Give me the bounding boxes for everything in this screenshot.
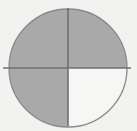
paper-grain-overlay	[0, 0, 137, 131]
figure-container	[0, 0, 137, 131]
quadrant-circle-figure	[0, 0, 137, 131]
